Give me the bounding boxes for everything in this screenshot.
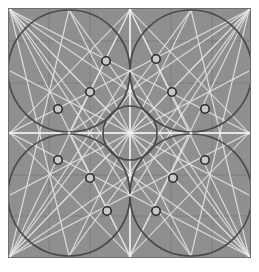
node-inner-left — [67, 131, 70, 134]
marker-tl-2[interactable] — [86, 88, 94, 96]
marker-bl-2[interactable] — [86, 174, 94, 182]
node-center — [128, 131, 131, 134]
node-inner-right — [189, 131, 192, 134]
marker-tl-1[interactable] — [102, 57, 110, 65]
plot-area — [8, 8, 252, 258]
marker-tr-3[interactable] — [201, 105, 209, 113]
marker-tr-1[interactable] — [152, 55, 160, 63]
marker-tr-2[interactable] — [168, 88, 176, 96]
marker-tl-3[interactable] — [54, 105, 62, 113]
geometric-figure — [0, 0, 259, 272]
marker-bl-3[interactable] — [103, 207, 111, 215]
marker-br-3[interactable] — [152, 207, 160, 215]
node-inner-bottom — [128, 193, 131, 196]
marker-bl-1[interactable] — [54, 156, 62, 164]
diagram-container — [0, 0, 259, 272]
plot-contents — [8, 8, 252, 258]
node-inner-top — [128, 69, 131, 72]
marker-br-2[interactable] — [169, 174, 177, 182]
marker-br-1[interactable] — [201, 156, 209, 164]
